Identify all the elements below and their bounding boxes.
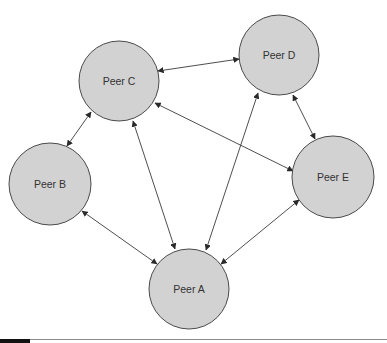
edge-d-a-double-arrow — [206, 93, 258, 250]
node-peer-a: Peer A — [149, 249, 229, 329]
node-peer-d: Peer D — [239, 15, 319, 95]
peer-label: Peer C — [103, 75, 136, 87]
nodes-layer: Peer APeer BPeer CPeer DPeer E — [9, 15, 374, 329]
edge-d-e-double-arrow — [293, 95, 315, 139]
edge-c-e-double-arrow — [155, 103, 293, 171]
peer-label: Peer A — [173, 283, 205, 295]
node-peer-c: Peer C — [79, 41, 159, 121]
peer-label: Peer E — [317, 171, 349, 183]
node-peer-b: Peer B — [9, 143, 91, 225]
edge-b-a-double-arrow — [82, 211, 157, 264]
edge-c-b-double-arrow — [67, 112, 91, 146]
edge-c-d-double-arrow — [158, 59, 239, 71]
peer-label: Peer B — [34, 178, 66, 190]
edge-e-a-double-arrow — [221, 200, 299, 264]
footer-black-bar — [0, 339, 30, 343]
footer-divider-line — [30, 339, 387, 340]
node-peer-e: Peer E — [292, 136, 374, 218]
peer-network-diagram: Peer APeer BPeer CPeer DPeer E — [0, 0, 387, 343]
peer-label: Peer D — [263, 49, 296, 61]
edge-c-a-double-arrow — [133, 121, 175, 249]
